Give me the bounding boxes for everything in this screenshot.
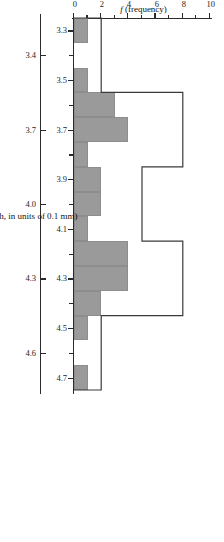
x-tick-minor-inner bbox=[70, 303, 74, 304]
x-axis-title: Y (femur length, in units of 0.1 mm) bbox=[0, 212, 88, 221]
histogram-bar bbox=[74, 68, 88, 93]
x-tick-label-outer: 3.4 bbox=[20, 51, 42, 60]
histogram-bar bbox=[74, 117, 128, 142]
x-tick-label-inner: 3.3 bbox=[51, 26, 73, 35]
x-tick-label-outer: 3.7 bbox=[20, 125, 42, 134]
x-tick-major-outer bbox=[41, 278, 46, 279]
x-tick-major-outer bbox=[41, 204, 46, 205]
x-tick-label-outer: 4.6 bbox=[20, 349, 42, 358]
y-axis-symbol: f bbox=[120, 4, 123, 14]
x-tick-label-outer: 4.3 bbox=[20, 274, 42, 283]
histogram-bar bbox=[74, 316, 88, 341]
x-tick-label-inner: 4.3 bbox=[51, 274, 73, 283]
y-tick-major bbox=[209, 13, 210, 18]
y-tick-label: 0 bbox=[64, 0, 86, 8]
x-tick-minor-inner bbox=[70, 105, 74, 106]
histogram-bar bbox=[74, 266, 128, 291]
x-tick-label-inner: 3.7 bbox=[51, 125, 73, 134]
bars-layer bbox=[74, 18, 210, 390]
y-axis-title: f (frequency) bbox=[99, 5, 189, 14]
histogram-bar bbox=[74, 18, 88, 43]
y-tick-minor bbox=[86, 15, 87, 19]
y-tick-major bbox=[154, 13, 155, 18]
figure-rotator: 02468103.33.53.73.94.14.34.54.73.43.74.0… bbox=[0, 0, 224, 542]
y-tick-major bbox=[127, 13, 128, 18]
histogram-bar bbox=[74, 142, 88, 167]
x-tick-label-inner: 3.9 bbox=[51, 175, 73, 184]
x-tick-label-inner: 3.5 bbox=[51, 76, 73, 85]
x-tick-label-outer: 4.0 bbox=[20, 200, 42, 209]
histogram-figure: 02468103.33.53.73.94.14.34.54.73.43.74.0… bbox=[0, 0, 224, 542]
y-tick-minor bbox=[141, 15, 142, 19]
histogram-bar bbox=[74, 241, 128, 266]
y-tick-major bbox=[182, 13, 183, 18]
x-tick-minor-inner bbox=[70, 204, 74, 205]
x-tick-label-inner: 4.7 bbox=[51, 373, 73, 382]
y-tick-minor bbox=[195, 15, 196, 19]
x-tick-minor-inner bbox=[70, 353, 74, 354]
x-tick-minor-inner bbox=[70, 154, 74, 155]
x-tick-minor-inner bbox=[70, 254, 74, 255]
histogram-bar bbox=[74, 365, 88, 390]
y-tick-label: 10 bbox=[200, 0, 222, 8]
histogram-bar bbox=[74, 92, 115, 117]
y-tick-major bbox=[100, 13, 101, 18]
y-tick-minor bbox=[168, 15, 169, 19]
histogram-bar bbox=[74, 167, 101, 192]
x-tick-minor-inner bbox=[70, 55, 74, 56]
x-tick-major-outer bbox=[41, 55, 46, 56]
x-tick-major-outer bbox=[41, 353, 46, 354]
x-tick-label-inner: 4.5 bbox=[51, 324, 73, 333]
y-tick-minor bbox=[114, 15, 115, 19]
x-tick-label-inner: 4.1 bbox=[51, 225, 73, 234]
x-tick-major-outer bbox=[41, 130, 46, 131]
y-tick-major bbox=[73, 13, 74, 18]
histogram-bar bbox=[74, 291, 101, 316]
